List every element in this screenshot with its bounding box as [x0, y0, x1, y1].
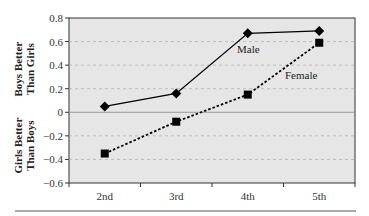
square-marker: [315, 39, 323, 47]
label-male: Male: [237, 43, 260, 55]
x-tick-label: 5th: [312, 190, 327, 202]
x-tick-label: 4th: [241, 190, 256, 202]
svg-text:Than Girls: Than Girls: [24, 43, 36, 95]
y-tick-label: −0.4: [43, 153, 63, 165]
label-female: Female: [285, 69, 317, 81]
side-label-boys-better: Boys BetterThan Girls: [12, 42, 36, 97]
side-label-girls-better: Girls BetterThan Boys: [12, 118, 36, 174]
square-marker: [172, 118, 180, 126]
square-marker: [101, 150, 109, 158]
x-tick-label: 2nd: [97, 190, 114, 202]
x-axis: 2nd3rd4th5th: [69, 183, 355, 202]
y-tick-label: 0.6: [49, 36, 63, 48]
x-tick-label: 3rd: [169, 190, 184, 202]
y-axis: 0.80.60.40.20−0.2−0.4−0.6: [43, 12, 69, 189]
y-tick-label: 0.4: [49, 59, 63, 71]
square-marker: [244, 91, 252, 99]
y-tick-label: −0.2: [43, 130, 63, 142]
plot-area: [69, 18, 355, 183]
svg-text:Girls Better: Girls Better: [12, 118, 24, 174]
y-tick-label: −0.6: [43, 177, 63, 189]
y-tick-label: 0.2: [49, 83, 63, 95]
y-tick-label: 0.8: [49, 12, 63, 24]
side-labels: Boys BetterThan GirlsGirls BetterThan Bo…: [12, 42, 36, 174]
y-tick-label: 0: [58, 106, 64, 118]
line-chart: 0.80.60.40.20−0.2−0.4−0.6 2nd3rd4th5th B…: [0, 0, 369, 216]
svg-text:Than Boys: Than Boys: [24, 120, 36, 171]
svg-text:Boys Better: Boys Better: [12, 42, 24, 97]
